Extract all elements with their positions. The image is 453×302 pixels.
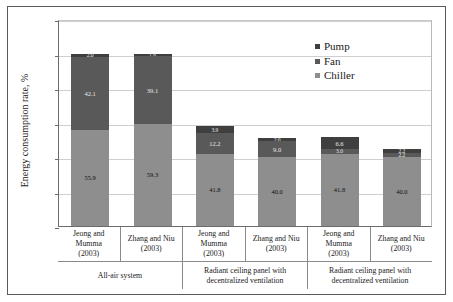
legend-item: Chiller	[315, 69, 355, 83]
x-axis-group: Jeong and Mumma(2003)Zhang and Niu(2003)…	[308, 227, 432, 289]
bar-value-label: 6.6	[335, 140, 343, 147]
x-axis-group-label: Radiant ceiling panel with decentralized…	[183, 261, 307, 289]
x-axis-cell-row: Jeong and Mumma(2003)Zhang and Niu(2003)	[308, 227, 432, 261]
bar-segment-chiller: 59.3	[134, 124, 172, 226]
bar-stack: 3.912.241.8	[196, 126, 234, 226]
x-axis-category-cell: Zhang and Niu(2003)	[246, 227, 308, 261]
bar-value-label: 3.9	[211, 127, 218, 133]
x-axis-author: Jeong and Mumma	[59, 229, 119, 249]
x-axis-group: Jeong and Mumma(2003)Zhang and Niu(2003)…	[183, 227, 308, 289]
bar-value-label: 41.8	[209, 186, 220, 193]
bar-stack: 6.63.041.8	[321, 137, 359, 226]
x-axis-label-table: Jeong and Mumma(2003)Zhang and Niu(2003)…	[58, 227, 432, 289]
bar-value-label: 41.8	[334, 186, 345, 193]
bar-value-label: 55.9	[84, 174, 95, 181]
legend-swatch-icon	[315, 44, 320, 49]
gridline	[59, 194, 431, 195]
gridline	[59, 125, 431, 126]
bar-value-label: 9.0	[273, 146, 281, 153]
x-axis-year: (2003)	[141, 244, 162, 254]
chart-legend: PumpFanChiller	[315, 40, 355, 84]
bar-segment-pump: 6.6	[321, 137, 359, 148]
bar-value-label: 40.0	[396, 188, 407, 195]
gridline	[59, 90, 431, 91]
bar-segment-fan: 42.1	[71, 57, 109, 130]
y-tick-mark	[55, 21, 59, 22]
bar-value-label: 59.3	[147, 171, 158, 178]
bar-segment-fan: 39.1	[134, 56, 172, 123]
x-axis-year: (2003)	[266, 244, 287, 254]
y-tick-mark	[55, 90, 59, 91]
legend-swatch-icon	[315, 73, 320, 78]
chart-figure: Energy consumption rate, % 1201008060402…	[0, 0, 453, 302]
bar-segment-chiller: 41.8	[321, 154, 359, 226]
bar-value-label: 40.0	[271, 188, 282, 195]
x-axis-year: (2003)	[78, 249, 99, 259]
bar-segment-pump: 3.9	[196, 126, 234, 133]
legend-label: Pump	[324, 40, 350, 54]
x-axis-year: (2003)	[391, 244, 412, 254]
x-axis-category-cell: Zhang and Niu(2003)	[121, 227, 183, 261]
x-axis-author: Zhang and Niu	[253, 234, 300, 244]
x-axis-category-cell: Zhang and Niu(2003)	[371, 227, 433, 261]
bar-segment-fan: 9.0	[258, 141, 296, 157]
x-axis-group-label: All-air system	[58, 261, 182, 289]
bar-segment-fan: 12.2	[196, 133, 234, 154]
plot-area: 1201008060402002.042.155.91.639.159.33.9…	[58, 20, 432, 227]
bar-stack: 2.22.240.0	[383, 149, 421, 226]
y-tick-mark	[55, 125, 59, 126]
bar-segment-chiller: 40.0	[383, 157, 421, 226]
y-axis-title: Energy consumption rate, %	[19, 46, 30, 216]
x-axis-year: (2003)	[328, 249, 349, 259]
bar-segment-chiller: 40.0	[258, 157, 296, 226]
bar-value-label: 39.1	[147, 87, 158, 94]
x-axis-group-label: Radiant ceiling panel with decentralized…	[308, 261, 432, 289]
x-axis-category-cell: Jeong and Mumma(2003)	[183, 227, 246, 261]
y-tick-mark	[55, 56, 59, 57]
gridline	[59, 159, 431, 160]
x-axis-year: (2003)	[203, 249, 224, 259]
bar-value-label: 42.1	[84, 90, 95, 97]
legend-label: Fan	[324, 55, 341, 69]
gridline	[59, 21, 431, 22]
y-tick-mark	[55, 159, 59, 160]
bar-stack: 2.09.040.0	[258, 138, 296, 226]
x-axis-category-cell: Jeong and Mumma(2003)	[308, 227, 371, 261]
gridline	[59, 56, 431, 57]
legend-item: Fan	[315, 55, 355, 69]
x-axis-author: Jeong and Mumma	[309, 229, 369, 249]
x-axis-author: Jeong and Mumma	[184, 229, 244, 249]
x-axis-cell-row: Jeong and Mumma(2003)Zhang and Niu(2003)	[183, 227, 307, 261]
y-tick-mark	[55, 194, 59, 195]
legend-swatch-icon	[315, 59, 320, 64]
x-axis-category-cell: Jeong and Mumma(2003)	[58, 227, 121, 261]
x-axis-author: Zhang and Niu	[128, 234, 175, 244]
bar-value-label: 12.2	[209, 140, 220, 147]
legend-item: Pump	[315, 40, 355, 54]
x-axis-author: Zhang and Niu	[378, 234, 425, 244]
bar-segment-chiller: 55.9	[71, 130, 109, 226]
legend-label: Chiller	[324, 69, 355, 83]
bar-stack: 1.639.159.3	[134, 54, 172, 226]
x-axis-group: Jeong and Mumma(2003)Zhang and Niu(2003)…	[58, 227, 183, 289]
x-axis-cell-row: Jeong and Mumma(2003)Zhang and Niu(2003)	[58, 227, 182, 261]
bar-segment-chiller: 41.8	[196, 154, 234, 226]
bar-stack: 2.042.155.9	[71, 54, 109, 226]
